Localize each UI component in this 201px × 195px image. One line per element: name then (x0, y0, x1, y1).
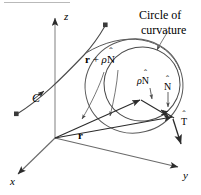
position-vector-label: r (78, 130, 83, 141)
vector-t-hat (173, 119, 181, 144)
circle-of-curvature-label-line2: curvature (141, 24, 186, 36)
axis-label-y: y (183, 170, 188, 181)
rho-n-hat: ˆ (144, 69, 147, 78)
r-plus-rho-n-hat: ˆ (109, 47, 112, 57)
curve-label-c: C (32, 92, 40, 104)
unit-normal-wrap: ˆN (164, 82, 171, 92)
vector-r-plus-rho-n (55, 100, 140, 138)
curve-endpoint-end (103, 23, 108, 28)
vector-group (55, 100, 181, 144)
curve-endpoint-start (14, 112, 19, 117)
circle-of-curvature-figure: Circle of curvature C r + ρˆN ρˆN ˆN ˆT … (0, 0, 201, 195)
x-axis-line (18, 138, 55, 174)
position-vector-r (55, 117, 172, 138)
unit-normal-label: ˆN (164, 82, 171, 92)
label-leaders (82, 70, 168, 119)
rho-n-label-leader (150, 88, 152, 99)
rho-n-N-wrap: ˆN (142, 76, 149, 86)
unit-tangent-label: ˆT (181, 117, 187, 127)
axis-label-z: z (64, 11, 68, 22)
unit-tangent-hat: ˆ (183, 110, 186, 119)
vector-rho-n (141, 100, 168, 116)
r-plus-rho-n-plus: + (90, 53, 102, 65)
unit-tangent-wrap: ˆT (181, 117, 187, 127)
space-curve-c (14, 23, 108, 117)
circle-of-curvature-label-line1: Circle of (139, 9, 181, 21)
rho-n-label: ρˆN (137, 76, 149, 86)
axis-label-x: x (10, 176, 15, 187)
y-axis-line (55, 138, 178, 167)
r-plus-rho-n-N-wrap: ˆN (107, 54, 115, 65)
r-plus-rho-n-label: r + ρˆN (85, 54, 115, 65)
unit-normal-hat: ˆ (166, 75, 169, 84)
